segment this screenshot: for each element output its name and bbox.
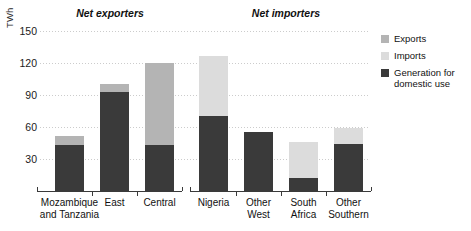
legend-item-exports: Exports (381, 33, 471, 44)
bar-segment-imports (199, 56, 228, 117)
legend-label-exports: Exports (394, 33, 426, 44)
axis-end-tick (182, 187, 183, 191)
bar-segment-generation (145, 145, 174, 191)
bar (244, 132, 273, 191)
bar-segment-generation (100, 92, 129, 191)
bar-segment-generation (289, 178, 318, 191)
axis-end-tick (371, 187, 372, 191)
axis-interior-tick (92, 192, 93, 196)
y-tick-label: 150 (0, 26, 37, 37)
legend-swatch-exports (381, 35, 389, 43)
gridline (40, 31, 370, 32)
bar-segment-generation (55, 145, 84, 191)
category-label: Other Southern (304, 197, 394, 220)
legend-label-imports: Imports (394, 50, 426, 61)
y-tick-label: 120 (0, 58, 37, 69)
bar (334, 128, 363, 191)
y-tick-label: 60 (0, 122, 37, 133)
chart-container: TWh 150120906030 Net exporters Net impor… (0, 0, 471, 231)
bar (199, 56, 228, 191)
bar-segment-generation (199, 116, 228, 191)
bar-segment-generation (334, 144, 363, 191)
panel-title-net-exporters: Net exporters (30, 7, 190, 19)
axis-interior-tick (281, 192, 282, 196)
legend-swatch-generation (381, 69, 389, 77)
axis-end-tick (37, 187, 38, 191)
axis-interior-tick (137, 192, 138, 196)
bar-segment-imports (334, 128, 363, 144)
axis-interior-tick (236, 192, 237, 196)
legend-label-generation: Generation for domestic use (394, 67, 471, 89)
bar (100, 84, 129, 191)
legend-swatch-imports (381, 52, 389, 60)
legend-item-imports: Imports (381, 50, 471, 61)
bar-segment-imports (289, 142, 318, 178)
y-tick-label: 90 (0, 90, 37, 101)
legend-item-generation: Generation for domestic use (381, 67, 471, 89)
axis-interior-tick (326, 192, 327, 196)
bar (145, 63, 174, 191)
axis-end-tick (190, 187, 191, 191)
legend: Exports Imports Generation for domestic … (381, 33, 471, 95)
bar-segment-exports (100, 84, 129, 91)
bar-segment-exports (55, 136, 84, 146)
panel-title-net-importers: Net importers (196, 7, 376, 19)
bar-segment-generation (244, 132, 273, 191)
bar-segment-exports (145, 63, 174, 145)
x-axis-line (37, 191, 182, 192)
bar (55, 136, 84, 191)
y-tick-label: 30 (0, 154, 37, 165)
bar (289, 142, 318, 191)
